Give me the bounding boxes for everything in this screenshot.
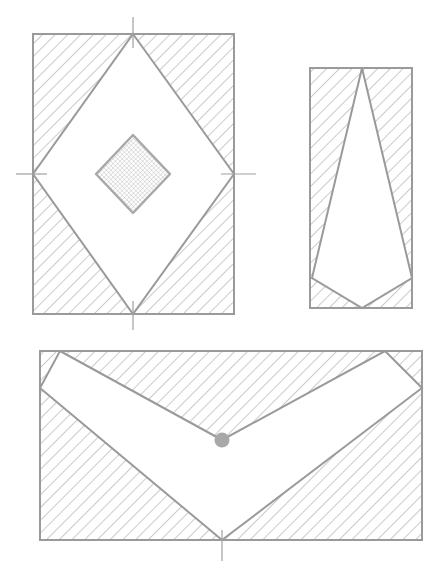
- figure-top-right-hatch-region: [310, 68, 412, 308]
- figure-top-right: [310, 68, 412, 308]
- inner-vertex-dot: [215, 433, 230, 448]
- hatched-fill: [40, 351, 422, 540]
- figure-bottom: [40, 351, 422, 561]
- hatched-fill: [310, 68, 412, 308]
- drawing-surface: [0, 0, 440, 569]
- figure-top-left: [16, 17, 256, 330]
- technical-drawing-canvas: [0, 0, 440, 569]
- figure-bottom-hatch-region: [40, 351, 422, 540]
